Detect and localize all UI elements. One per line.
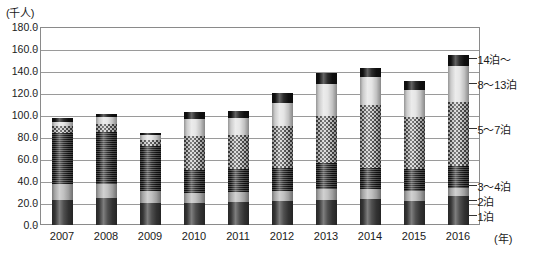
legend-leader-line — [469, 185, 477, 186]
chart-canvas: (千人) 0.020.040.060.080.0100.0120.0140.01… — [0, 0, 537, 257]
legend-item-14泊～[interactable]: 14泊～ — [478, 51, 511, 67]
legend-item-8～13泊[interactable]: 8～13泊 — [478, 76, 517, 92]
legend-leader-line — [469, 215, 477, 216]
legend-item-2泊[interactable]: 2泊 — [478, 193, 495, 209]
legend-item-3～4泊[interactable]: 3～4泊 — [478, 178, 511, 194]
legend-item-1泊[interactable]: 1泊 — [478, 208, 495, 224]
legend: 1泊2泊3～4泊5～7泊8～13泊14泊～ — [0, 0, 537, 257]
legend-leader-line — [469, 200, 477, 201]
legend-leader-line — [469, 58, 477, 59]
legend-leader-line — [469, 128, 477, 129]
legend-leader-line — [469, 83, 477, 84]
legend-item-5～7泊[interactable]: 5～7泊 — [478, 121, 511, 137]
